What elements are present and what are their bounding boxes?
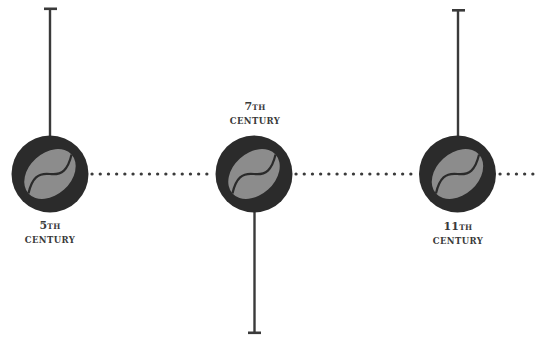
label-7th-century: 7TH CENTURY: [210, 101, 300, 126]
ordinal-number: 11: [444, 220, 460, 233]
stem-7th-century: [248, 211, 261, 334]
stem-11th-century: [452, 9, 465, 137]
timeline-diagram: [0, 0, 536, 343]
timeline-node-5th-century[interactable]: [12, 136, 89, 213]
ordinal-suffix: TH: [252, 103, 265, 112]
label-word: CENTURY: [5, 235, 95, 245]
label-5th-century: 5TH CENTURY: [5, 220, 95, 245]
stem-5th-century: [44, 8, 57, 138]
label-word: CENTURY: [210, 116, 300, 126]
label-ordinal: 11TH: [413, 221, 503, 235]
label-ordinal: 5TH: [5, 220, 95, 234]
label-word: CENTURY: [413, 236, 503, 246]
ordinal-suffix: TH: [47, 222, 60, 231]
ordinal-suffix: TH: [459, 223, 472, 232]
label-ordinal: 7TH: [210, 101, 300, 115]
label-11th-century: 11TH CENTURY: [413, 221, 503, 246]
timeline-node-7th-century[interactable]: [216, 136, 293, 213]
timeline-node-11th-century[interactable]: [419, 136, 496, 213]
